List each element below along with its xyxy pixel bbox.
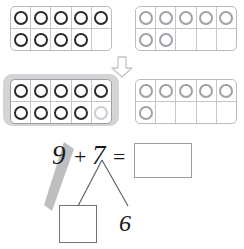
counter-dot-empty bbox=[219, 33, 233, 47]
number-bond-right-part: 6 bbox=[119, 210, 131, 237]
ten-frame-row bbox=[136, 101, 236, 123]
counter-dot bbox=[179, 11, 193, 25]
counter-dot-empty bbox=[179, 33, 193, 47]
counter-dot bbox=[14, 11, 28, 25]
counter-dot-empty bbox=[159, 106, 173, 120]
ten-frame-row bbox=[136, 28, 236, 50]
ten-frame-row bbox=[11, 101, 111, 123]
ten-frame-cell[interactable] bbox=[91, 80, 111, 101]
ten-frame-cell[interactable] bbox=[196, 7, 216, 28]
ten-frame-cell[interactable] bbox=[136, 29, 155, 50]
counter-dot bbox=[74, 11, 88, 25]
counter-dot bbox=[74, 33, 88, 47]
counter-dot bbox=[94, 84, 108, 98]
ten-frame-cell[interactable] bbox=[30, 29, 50, 50]
ten-frame-cell[interactable] bbox=[50, 29, 70, 50]
ten-frame-cell[interactable] bbox=[11, 80, 30, 101]
counter-dot-empty bbox=[179, 106, 193, 120]
ten-frame-completed-ten[interactable] bbox=[10, 79, 112, 124]
ten-frame-cell[interactable] bbox=[216, 102, 236, 123]
ten-frame-cell[interactable] bbox=[11, 102, 30, 123]
ten-frame-cell[interactable] bbox=[11, 29, 30, 50]
counter-dot bbox=[54, 11, 68, 25]
ten-frame-cell[interactable] bbox=[91, 102, 111, 123]
ten-frame-cell[interactable] bbox=[175, 80, 195, 101]
ten-frame-cell[interactable] bbox=[91, 29, 111, 50]
ten-frame-cell[interactable] bbox=[30, 80, 50, 101]
equation-addend-2: 7 bbox=[92, 140, 106, 171]
ten-frame-row bbox=[11, 7, 111, 28]
counter-dot-empty bbox=[94, 33, 108, 47]
counter-dot bbox=[74, 84, 88, 98]
ten-frame-cell[interactable] bbox=[155, 7, 175, 28]
ten-frame-cell[interactable] bbox=[216, 7, 236, 28]
counter-dot bbox=[159, 84, 173, 98]
ten-frame-cell[interactable] bbox=[50, 80, 70, 101]
counter-dot bbox=[34, 106, 48, 120]
ten-frame-cell[interactable] bbox=[196, 29, 216, 50]
counter-dot bbox=[139, 106, 153, 120]
ten-frame-row bbox=[136, 7, 236, 28]
counter-dot bbox=[74, 106, 88, 120]
ten-frame-cell[interactable] bbox=[175, 7, 195, 28]
counter-dot bbox=[199, 84, 213, 98]
counter-dot-empty bbox=[199, 106, 213, 120]
ten-frame-cell[interactable] bbox=[30, 7, 50, 28]
counter-dot bbox=[34, 11, 48, 25]
counter-dot bbox=[179, 84, 193, 98]
ten-frame-cell[interactable] bbox=[196, 80, 216, 101]
ten-frame-row bbox=[136, 80, 236, 101]
counter-dot-empty bbox=[219, 106, 233, 120]
ten-frame-cell[interactable] bbox=[175, 102, 195, 123]
counter-dot bbox=[54, 106, 68, 120]
counter-dot bbox=[139, 33, 153, 47]
counter-dot bbox=[219, 11, 233, 25]
counter-dot bbox=[139, 84, 153, 98]
counter-dot-moved bbox=[94, 106, 108, 120]
ten-frame-cell[interactable] bbox=[216, 29, 236, 50]
counter-dot bbox=[94, 11, 108, 25]
counter-dot bbox=[199, 11, 213, 25]
ten-frame-cell[interactable] bbox=[30, 102, 50, 123]
ten-frame-cell[interactable] bbox=[50, 7, 70, 28]
ten-frame-cell[interactable] bbox=[71, 7, 91, 28]
ten-frame-first-addend[interactable] bbox=[10, 6, 112, 51]
ten-frame-cell[interactable] bbox=[136, 102, 155, 123]
equation-plus-sign: + bbox=[74, 144, 86, 170]
ten-frame-second-addend[interactable] bbox=[135, 6, 237, 51]
number-bond-left-part-box[interactable] bbox=[59, 205, 97, 243]
ten-frame-cell[interactable] bbox=[91, 7, 111, 28]
ten-frame-cell[interactable] bbox=[11, 7, 30, 28]
ten-frame-remainder[interactable] bbox=[135, 79, 237, 124]
equation-equals-sign: = bbox=[113, 144, 125, 170]
counter-dot bbox=[54, 84, 68, 98]
ten-frame-cell[interactable] bbox=[50, 102, 70, 123]
ten-frame-cell[interactable] bbox=[216, 80, 236, 101]
counter-dot-empty bbox=[199, 33, 213, 47]
ten-frame-row bbox=[11, 80, 111, 101]
ten-frame-cell[interactable] bbox=[136, 7, 155, 28]
counter-dot bbox=[34, 84, 48, 98]
counter-dot bbox=[219, 84, 233, 98]
ten-frame-cell[interactable] bbox=[136, 80, 155, 101]
counter-dot bbox=[159, 11, 173, 25]
ten-frame-cell[interactable] bbox=[71, 29, 91, 50]
equation-addend-1: 9 bbox=[52, 140, 66, 171]
counter-dot bbox=[34, 33, 48, 47]
ten-frame-cell[interactable] bbox=[155, 102, 175, 123]
ten-frame-cell[interactable] bbox=[155, 80, 175, 101]
ten-frame-cell[interactable] bbox=[71, 80, 91, 101]
counter-dot bbox=[14, 33, 28, 47]
counter-dot bbox=[14, 106, 28, 120]
counter-dot bbox=[139, 11, 153, 25]
ten-frame-cell[interactable] bbox=[196, 102, 216, 123]
ten-frame-cell[interactable] bbox=[71, 102, 91, 123]
ten-frame-cell[interactable] bbox=[155, 29, 175, 50]
counter-dot bbox=[54, 33, 68, 47]
counter-dot bbox=[159, 33, 173, 47]
sum-answer-box[interactable] bbox=[134, 143, 192, 178]
ten-frame-cell[interactable] bbox=[175, 29, 195, 50]
counter-dot bbox=[14, 84, 28, 98]
ten-frame-row bbox=[11, 28, 111, 50]
